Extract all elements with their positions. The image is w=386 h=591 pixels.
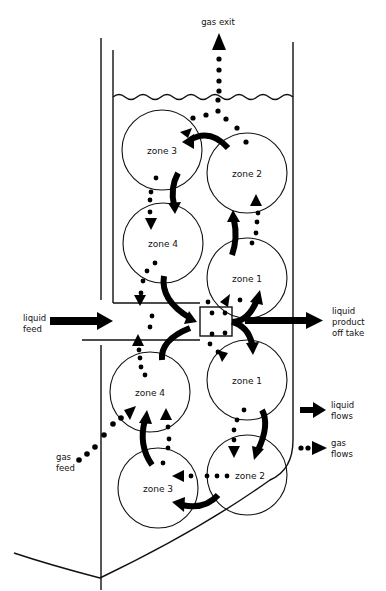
zone-label: zone 4 [135,388,165,398]
liquid-arrow-icon [258,410,265,450]
arrowhead-icon [217,350,228,362]
legend-liquid-label: flows [331,411,354,421]
liquid-arrow-icon [182,495,218,506]
liquid-arrow-icon [143,420,152,465]
zone-label: zone 1 [232,376,262,386]
feed-arrowhead-icon [97,312,113,330]
zone-label: zone 3 [147,146,177,156]
arrowhead-icon [220,294,230,307]
zone-label: zone 2 [232,169,262,179]
arrowhead-icon [228,446,240,458]
gas-feed-arrowhead-icon [124,406,136,420]
liquid-feed-label: feed [23,324,42,334]
liquid-arrow-icon [190,136,228,149]
zone-label: zone 4 [148,239,178,249]
reactor-diagram: zone 3 zone 2 zone 4 zone 1 zone 4 zone … [0,0,386,591]
arrowhead-icon [139,410,152,424]
gas-feed-label: feed [56,463,75,473]
liquid-surface [113,95,293,100]
legend-liquid-label: liquid [331,400,354,410]
arrowhead-icon [250,290,263,305]
zone-label: zone 1 [232,274,262,284]
legend-liquid-arrow-icon [313,402,326,418]
arrowhead-icon [160,408,172,420]
arrowhead-icon [246,342,259,355]
liquid-arrow-icon [232,220,236,255]
legend-gas-arrow-icon [312,441,327,455]
arrowhead-icon [172,470,184,482]
liquid-product-label: product [332,317,365,327]
gas-exit-arrowhead-icon [212,33,226,50]
legend: liquid flows gas flows [298,400,354,459]
legend-gas-label: gas [331,438,347,448]
liquid-product-label: liquid [332,306,355,316]
product-arrowhead-icon [306,312,323,329]
liquid-product-label: off take [332,328,364,338]
arrowhead-icon [134,295,146,306]
gas-flow-arrows [76,33,262,482]
arrowhead-icon [172,497,185,512]
gas-exit-label: gas exit [201,17,235,27]
arrowhead-icon [168,202,181,214]
legend-liquid-shaft [300,407,314,413]
liquid-arrow-icon [173,173,178,205]
zone-label: zone 2 [235,471,265,481]
arrowhead-icon [250,194,262,206]
feed-box [200,307,232,336]
legend-gas-label: flows [331,449,354,459]
arrowhead-icon [252,446,264,460]
arrowhead-icon [145,218,157,230]
liquid-feed-label: liquid [23,313,46,323]
feed-arrow-shaft [50,317,98,325]
product-arrow-shaft [245,317,307,324]
gas-feed-label: gas [56,452,72,462]
gas-exit-dots [190,56,248,144]
zone-label: zone 3 [143,484,173,494]
